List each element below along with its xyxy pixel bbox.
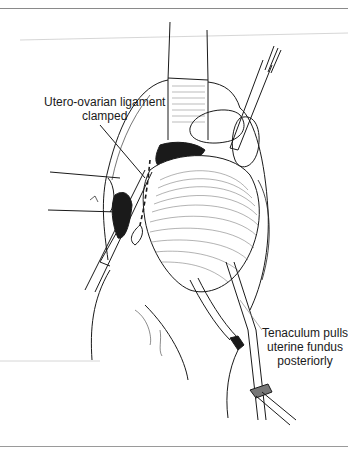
label-line: clamped <box>44 109 165 123</box>
surgical-illustration <box>0 0 348 453</box>
label-line: posteriorly <box>262 354 348 368</box>
bottom-rule <box>0 446 348 447</box>
label-tenaculum: Tenaculum pulls uterine fundus posterior… <box>262 326 348 368</box>
label-line: Tenaculum pulls <box>262 326 348 340</box>
uterus <box>143 156 259 292</box>
label-line: uterine fundus <box>262 340 348 354</box>
upper-retractor-blade <box>168 22 208 140</box>
leader-line-utero <box>100 125 145 178</box>
label-utero-ovarian-ligament: Utero-ovarian ligament clamped <box>44 95 165 123</box>
left-retractor <box>48 172 120 212</box>
label-line: Utero-ovarian ligament <box>44 95 165 109</box>
